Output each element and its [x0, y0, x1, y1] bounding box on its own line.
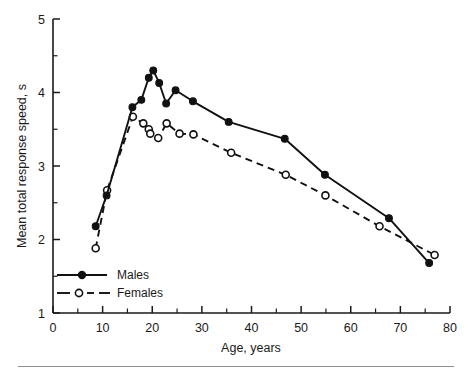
data-point-females-13 [376, 223, 383, 230]
chart-legend: Males Females [57, 268, 163, 300]
y-tick-label-5: 5 [38, 13, 45, 27]
data-point-males-12 [322, 171, 329, 178]
data-point-males-7 [163, 100, 170, 107]
legend-label-males: Males [117, 268, 149, 282]
x-tick-label-20: 20 [145, 321, 159, 335]
data-point-females-7 [163, 120, 170, 127]
legend-marker-males [78, 271, 85, 278]
y-tick-label-2: 2 [38, 233, 45, 247]
y-tick-label-4: 4 [38, 86, 45, 100]
data-point-males-0 [92, 223, 99, 230]
data-point-females-0 [92, 245, 99, 252]
x-tick-label-30: 30 [195, 321, 209, 335]
data-point-males-13 [386, 215, 393, 222]
data-point-females-11 [282, 171, 289, 178]
y-tick-label-1: 1 [38, 307, 45, 321]
data-point-males-10 [225, 119, 232, 126]
y-tick-label-3: 3 [38, 160, 45, 174]
series-path-males [96, 70, 429, 263]
data-point-males-3 [138, 96, 145, 103]
data-point-females-5 [147, 130, 154, 137]
x-tick-label-80: 80 [443, 321, 457, 335]
x-axis-title: Age, years [221, 341, 281, 355]
series-males [92, 67, 432, 266]
data-point-males-6 [156, 80, 163, 87]
figure-container: 01020304050607080 12345 Males Females Ag… [0, 0, 471, 375]
series-path-females [96, 117, 435, 255]
data-point-females-12 [322, 192, 329, 199]
data-point-males-14 [426, 260, 433, 267]
x-tick-label-70: 70 [393, 321, 407, 335]
data-point-males-8 [172, 87, 179, 94]
axis-lines [53, 19, 450, 313]
data-point-males-9 [190, 98, 197, 105]
data-point-females-14 [431, 251, 438, 258]
footer-divider-rule [18, 366, 454, 367]
data-point-females-6 [155, 135, 162, 142]
data-point-males-4 [145, 74, 152, 81]
data-point-males-5 [150, 67, 157, 74]
x-tick-label-40: 40 [245, 321, 259, 335]
x-tick-label-60: 60 [344, 321, 358, 335]
y-axis-tick-labels: 12345 [38, 13, 45, 321]
x-axis-ticks [53, 306, 450, 313]
legend-marker-females [75, 289, 82, 296]
data-point-males-11 [281, 135, 288, 142]
x-tick-label-10: 10 [96, 321, 110, 335]
data-point-males-2 [129, 104, 136, 111]
data-point-females-10 [228, 149, 235, 156]
x-tick-label-50: 50 [294, 321, 308, 335]
y-axis-title: Mean total response speed, s [15, 84, 29, 248]
legend-label-females: Females [117, 286, 163, 300]
x-tick-label-0: 0 [50, 321, 57, 335]
y-axis-ticks [53, 19, 60, 313]
data-point-females-8 [176, 130, 183, 137]
data-point-males-1 [103, 192, 110, 199]
series-females [92, 113, 438, 258]
data-point-females-3 [140, 120, 147, 127]
data-point-females-9 [190, 131, 197, 138]
x-axis-tick-labels: 01020304050607080 [50, 321, 457, 335]
line-chart: 01020304050607080 12345 Males Females Ag… [0, 0, 471, 375]
